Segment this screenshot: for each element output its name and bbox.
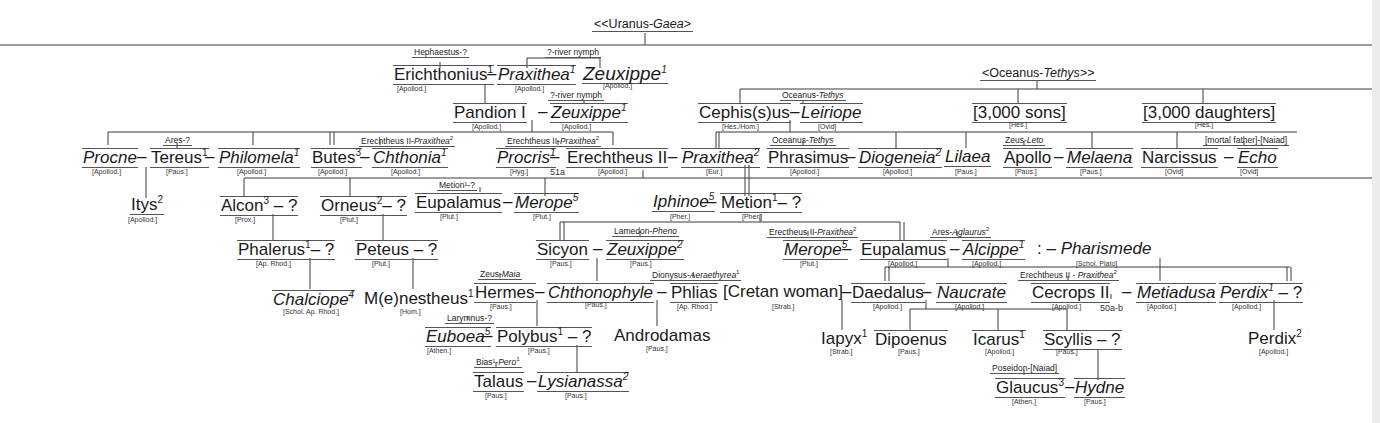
source: [Schol. Ap. Rhod.] — [283, 308, 339, 315]
marriage-dash: – — [846, 148, 855, 166]
reference-51a: 51a — [550, 167, 565, 177]
person-iapyx: Iapyx1 — [820, 330, 868, 348]
source: [Apollod.] — [888, 260, 917, 267]
parents-bias-pero: Bias¹-Pero1 — [474, 356, 522, 368]
parents-ares: Ares-? — [163, 135, 192, 146]
person-phlias: Phlias — [670, 283, 718, 303]
marriage-dash: – — [535, 283, 544, 301]
genealogy-diagram: <<Uranus-Gaea> <Oceanus-Tethys>> Hephaes… — [0, 0, 1380, 423]
page-edge — [1372, 0, 1380, 423]
person-tereus: Tereus1 — [150, 148, 209, 168]
source: [Paus.] — [1080, 168, 1102, 175]
source: [Paus.] — [490, 303, 512, 310]
marriage-dash: – — [205, 148, 214, 166]
source: [Apollod.] — [472, 123, 501, 130]
parents-ares-aglaurus: Ares-Aglaurus2 — [930, 226, 991, 238]
marriage-dash: – — [538, 103, 547, 121]
source: [Plut.] — [340, 216, 358, 223]
person-lilaea: Lilaea — [944, 148, 991, 167]
person-chthonia: Chthonia1 — [372, 148, 448, 168]
source: [Paus.] — [955, 168, 977, 175]
marriage-dash: – — [593, 240, 602, 258]
source: [Paus.] — [585, 301, 607, 308]
parents-erechtheus-praxithea-d: Erechtheus II - Praxithea2 — [1018, 269, 1119, 281]
source: [Ap. Rhod.] — [677, 303, 712, 310]
person-itys: Itys2 — [130, 196, 164, 215]
parents-zeus-maia: Zeus-Maia — [478, 269, 522, 280]
source: [Apollod.] — [1232, 303, 1261, 310]
source: [Apollod.] — [237, 168, 266, 175]
person-philomela: Philomela1 — [218, 148, 300, 168]
source: [Ap. Rhod.] — [256, 260, 291, 267]
source: [Pher.] — [742, 213, 762, 220]
source: [Pher.] — [670, 213, 690, 220]
person-procne: Procne — [82, 148, 138, 168]
source: [Apollod.] — [985, 348, 1014, 355]
parents-hephaestus: Hephaestus-? — [412, 47, 469, 58]
reference-50a-b: 50a-b — [1100, 303, 1123, 313]
source: [Ovid] — [1165, 168, 1183, 175]
parents-river-nymph-1: ?-river nymph — [545, 47, 601, 58]
source: [Strab.] — [772, 303, 795, 310]
person-phrasimus: Phrasimus — [767, 148, 849, 168]
parents-erechtheus-praxithea-a: Erechtheus II-Praxithea2 — [359, 135, 455, 147]
parents-larymnus: Larymnus-? — [445, 313, 494, 324]
marriage-dash: – — [483, 327, 492, 345]
source: [Hyg.] — [510, 168, 528, 175]
source: [Paus.] — [1056, 348, 1078, 355]
person-menestheus: M(e)nestheus1 — [363, 290, 475, 308]
person-daedalus: Daedalus — [851, 283, 925, 303]
person-chthonophyle: Chthonophyle — [547, 283, 654, 303]
person-procris: Procris1 — [496, 148, 556, 168]
person-scyllis: Scyllis – ? — [1043, 330, 1122, 350]
person-metiadusa: Metiadusa — [1136, 283, 1216, 303]
source: [Apollod.] — [128, 216, 157, 223]
parents-erectheus-praxithea-c: Erectheus II-Praxithea2 — [767, 226, 858, 238]
root-uranus-gaea: <<Uranus-Gaea> — [592, 17, 693, 32]
marriage-dash: – — [550, 148, 559, 166]
person-praxithea-2: Praxithea2 — [681, 148, 760, 168]
source: [Paus.] — [1084, 398, 1106, 405]
source: [Schol. Plato] — [1076, 260, 1117, 267]
person-narcissus: Narcissus — [1141, 148, 1218, 168]
person-diogeneia: Diogeneia2 — [858, 148, 942, 168]
person-hydne: Hydne — [1074, 378, 1125, 398]
source: [Apollod.] — [603, 82, 632, 89]
person-echo: Echo — [1237, 148, 1278, 168]
parents-erechtheus-praxithea-b: Erechtheus II-Praxithea2 — [505, 135, 601, 147]
marriage-dash: – — [360, 148, 369, 166]
marriage-dash: – — [1122, 283, 1131, 301]
person-orneus: Orneus2– ? — [320, 196, 407, 216]
source: [Apollod.] — [397, 85, 426, 92]
person-phalerus: Phalerus1– ? — [237, 240, 335, 260]
source: [Hes.] — [1009, 121, 1027, 128]
person-cecrops-ii: Cecrops II — [1031, 283, 1110, 303]
person-sicyon: Sicyon — [536, 240, 589, 260]
source: [Athen.] — [427, 347, 451, 354]
person-3000-daughters: [3,000 daughters] — [1142, 103, 1276, 123]
person-merope-5a: Merope5 — [514, 193, 579, 213]
person-melaena: Melaena — [1066, 148, 1133, 168]
parents-poseidon-naiad: Poseidon-[Naiad] — [990, 363, 1059, 374]
person-metion: Metion1– ? — [720, 193, 802, 213]
source: [Eur.] — [706, 168, 722, 175]
parents-oceanus-tethys-b: Oceanus-Tethys — [770, 135, 836, 146]
person-euboea: Euboea5 — [425, 327, 491, 347]
person-naucrate: Naucrate — [936, 283, 1007, 303]
parents-zeus-leto: Zeus-Leto — [1003, 135, 1045, 146]
person-glaucus: Glaucus3 — [995, 378, 1065, 398]
person-cephisus: Cephis(s)us — [698, 103, 791, 123]
marriage-dash: – — [1054, 148, 1063, 166]
source: [Apollod.] — [318, 168, 347, 175]
source: [Apollod.] — [1259, 348, 1288, 355]
marriage-dash: – — [790, 103, 799, 121]
person-zeuxippe-1b: Zeuxippe1 — [550, 103, 628, 123]
source: [Hes./Hom.] — [722, 123, 759, 130]
person-alcon: Alcon3 – ? — [220, 196, 298, 216]
person-erichthonius: Erichthonius1 — [393, 65, 494, 85]
marriage-dash: – — [503, 193, 512, 211]
source: [Paus.] — [550, 260, 572, 267]
source: [Hes.] — [1195, 121, 1213, 128]
source: [Apollod.] — [873, 303, 902, 310]
parents-mortal-naiad: [mortal father]-[Naiad] — [1203, 135, 1289, 146]
